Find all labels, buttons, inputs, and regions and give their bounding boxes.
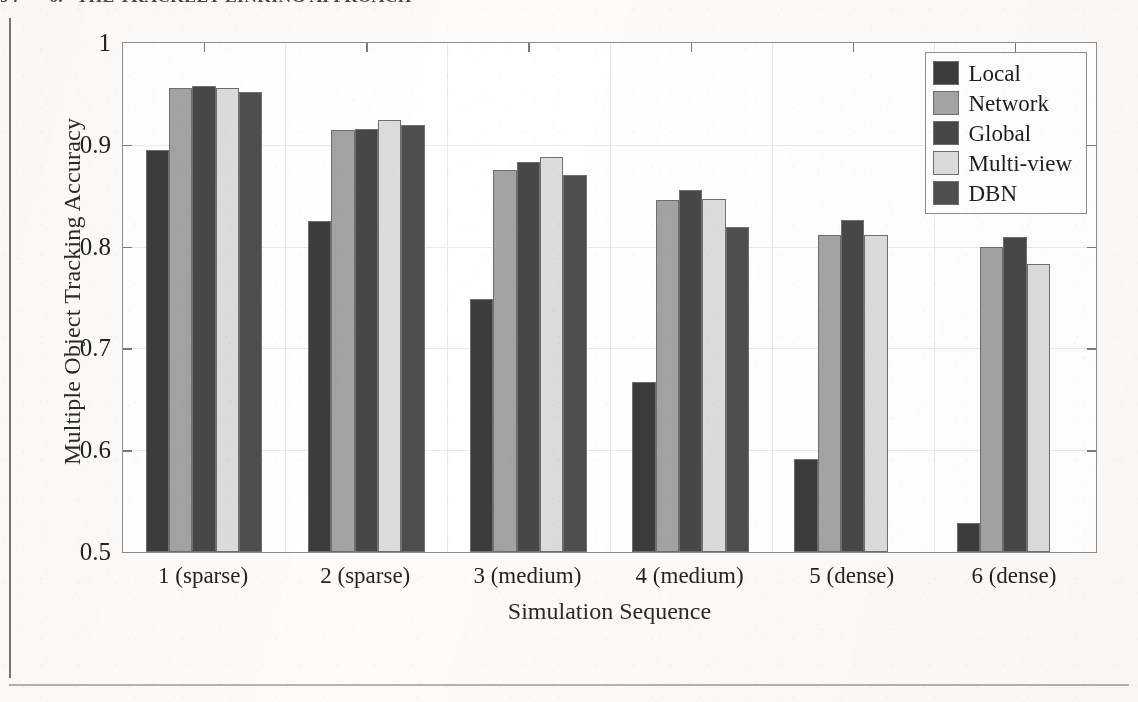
y-tick-mark — [1087, 145, 1096, 146]
x-tick-mark — [691, 43, 692, 52]
bar — [192, 86, 215, 552]
bar — [679, 190, 702, 552]
bar — [308, 221, 331, 552]
bar-chart-figure: Multiple Object Tracking Accuracy 0.50.6… — [20, 20, 1120, 665]
y-tick-label: 1 — [99, 29, 112, 57]
legend-swatch-icon — [933, 181, 959, 205]
bar — [957, 523, 980, 552]
x-tick-label: 2 (sparse) — [320, 563, 410, 589]
y-axis-label: Multiple Object Tracking Accuracy — [59, 32, 86, 552]
gridline-vertical — [772, 43, 773, 552]
chapter-title: THE TRACKLET LINKING APPROACH — [77, 0, 412, 6]
legend-label: DBN — [969, 182, 1018, 205]
bar — [146, 150, 169, 552]
x-tick-label: 3 (medium) — [473, 563, 581, 589]
gridline-vertical — [447, 43, 448, 552]
y-tick-mark — [1087, 450, 1096, 451]
bar — [517, 162, 540, 552]
bar — [378, 120, 401, 552]
legend-swatch-icon — [933, 151, 959, 175]
chart-legend: LocalNetworkGlobalMulti-viewDBN — [925, 52, 1088, 214]
legend-item[interactable]: Network — [933, 89, 1073, 117]
bar — [1027, 264, 1050, 552]
legend-swatch-icon — [933, 61, 959, 85]
bar — [632, 382, 655, 552]
plot-area: 0.50.60.70.80.91 LocalNetworkGlobalMulti… — [122, 42, 1097, 553]
y-tick-label: 0.8 — [80, 233, 111, 261]
y-tick-mark — [123, 348, 132, 349]
chapter-number: 6. — [49, 0, 63, 6]
bar — [239, 92, 262, 552]
bar — [980, 247, 1003, 552]
bar — [355, 129, 378, 552]
x-tick-mark — [853, 43, 854, 52]
bar — [726, 227, 749, 552]
x-tick-label: 1 (sparse) — [158, 563, 248, 589]
bar — [169, 88, 192, 552]
legend-item[interactable]: Local — [933, 59, 1073, 87]
x-tick-mark — [1015, 43, 1016, 52]
bar — [1003, 237, 1026, 552]
y-tick-label: 0.6 — [80, 436, 111, 464]
bar — [401, 125, 424, 552]
bar — [864, 235, 887, 552]
bar — [331, 130, 354, 552]
bar — [563, 175, 586, 552]
bar — [216, 88, 239, 552]
x-tick-mark — [204, 43, 205, 52]
legend-swatch-icon — [933, 91, 959, 115]
bar — [818, 235, 841, 552]
running-header: 94 6. THE TRACKLET LINKING APPROACH — [0, 0, 760, 12]
book-page: 94 6. THE TRACKLET LINKING APPROACH Mult… — [0, 0, 1138, 702]
bar — [702, 199, 725, 552]
bar — [656, 200, 679, 552]
gridline-vertical — [285, 43, 286, 552]
legend-item[interactable]: Global — [933, 119, 1073, 147]
page-number: 94 — [0, 0, 18, 6]
x-tick-label: 5 (dense) — [809, 563, 894, 589]
y-tick-mark — [123, 145, 132, 146]
y-tick-mark — [1087, 348, 1096, 349]
legend-item[interactable]: Multi-view — [933, 149, 1073, 177]
y-tick-label: 0.9 — [80, 131, 111, 159]
page-bottom-rule — [9, 684, 1129, 686]
legend-item[interactable]: DBN — [933, 179, 1073, 207]
x-axis-tick-labels: 1 (sparse)2 (sparse)3 (medium)4 (medium)… — [122, 563, 1097, 597]
legend-swatch-icon — [933, 121, 959, 145]
legend-label: Local — [969, 62, 1021, 85]
x-axis-label: Simulation Sequence — [122, 598, 1097, 625]
bar — [470, 299, 493, 552]
y-tick-label: 0.7 — [80, 334, 111, 362]
legend-label: Multi-view — [969, 152, 1073, 175]
x-tick-label: 6 (dense) — [971, 563, 1056, 589]
x-tick-mark — [528, 43, 529, 52]
page-left-rule — [9, 18, 11, 678]
y-tick-mark — [123, 450, 132, 451]
y-tick-mark — [123, 247, 132, 248]
bar — [493, 170, 516, 552]
y-tick-mark — [1087, 247, 1096, 248]
legend-label: Network — [969, 92, 1049, 115]
x-tick-mark — [366, 43, 367, 52]
bar — [841, 220, 864, 552]
bar — [794, 459, 817, 552]
bar — [540, 157, 563, 552]
x-tick-label: 4 (medium) — [636, 563, 744, 589]
gridline-vertical — [610, 43, 611, 552]
legend-label: Global — [969, 122, 1032, 145]
y-tick-label: 0.5 — [80, 538, 111, 566]
